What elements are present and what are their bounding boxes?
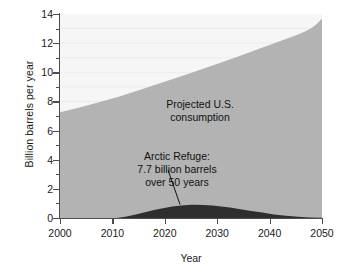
y-tick-2 bbox=[53, 189, 60, 190]
y-tick-label-4: 4 bbox=[13, 155, 53, 166]
x-tick-2050 bbox=[322, 218, 323, 224]
y-tick-label-6: 6 bbox=[13, 126, 53, 137]
x-tick-label-2040: 2040 bbox=[245, 227, 295, 239]
y-tick-4 bbox=[53, 160, 60, 161]
y-tick-12 bbox=[53, 43, 60, 44]
y-tick-minor-13 bbox=[56, 29, 61, 30]
y-tick-minor-9 bbox=[56, 87, 61, 88]
y-tick-minor-3 bbox=[56, 174, 61, 175]
plot-area: Projected U.S. consumption Arctic Refuge… bbox=[60, 14, 322, 218]
y-tick-label-8: 8 bbox=[13, 96, 53, 107]
x-tick-label-2030: 2030 bbox=[192, 227, 242, 239]
y-tick-label-12: 12 bbox=[13, 38, 53, 49]
x-tick-label-2000: 2000 bbox=[35, 227, 85, 239]
y-tick-6 bbox=[53, 131, 60, 132]
y-tick-label-2: 2 bbox=[13, 184, 53, 195]
x-tick-2000 bbox=[60, 218, 61, 224]
chart-figure: Billion barrels per year bbox=[0, 0, 345, 274]
annotation-refuge-line2: 7.7 billion barrels bbox=[112, 163, 242, 176]
y-tick-0 bbox=[53, 218, 60, 219]
y-tick-10 bbox=[53, 72, 60, 73]
x-axis-title: Year bbox=[60, 252, 322, 264]
x-tick-2020 bbox=[165, 218, 166, 224]
y-tick-minor-1 bbox=[56, 203, 61, 204]
annotation-refuge-line3: over 50 years bbox=[112, 176, 242, 189]
y-tick-minor-5 bbox=[56, 145, 61, 146]
annotation-consumption-line2: consumption bbox=[141, 111, 259, 124]
y-tick-label-0: 0 bbox=[13, 213, 53, 224]
y-tick-8 bbox=[53, 101, 60, 102]
x-tick-2040 bbox=[270, 218, 271, 224]
x-tick-2010 bbox=[112, 218, 113, 224]
annotation-consumption-line1: Projected U.S. bbox=[141, 98, 259, 111]
annotation-refuge-line1: Arctic Refuge: bbox=[112, 150, 242, 163]
x-axis-line bbox=[59, 218, 323, 219]
x-tick-label-2020: 2020 bbox=[140, 227, 190, 239]
x-tick-label-2050: 2050 bbox=[297, 227, 345, 239]
y-tick-label-14: 14 bbox=[13, 9, 53, 20]
annotation-arctic-refuge: Arctic Refuge: 7.7 billion barrels over … bbox=[112, 150, 242, 189]
x-tick-2030 bbox=[217, 218, 218, 224]
x-tick-label-2010: 2010 bbox=[87, 227, 137, 239]
y-tick-minor-11 bbox=[56, 58, 61, 59]
y-tick-14 bbox=[53, 14, 60, 15]
y-tick-minor-7 bbox=[56, 116, 61, 117]
annotation-projected-consumption: Projected U.S. consumption bbox=[141, 98, 259, 124]
y-tick-label-10: 10 bbox=[13, 67, 53, 78]
